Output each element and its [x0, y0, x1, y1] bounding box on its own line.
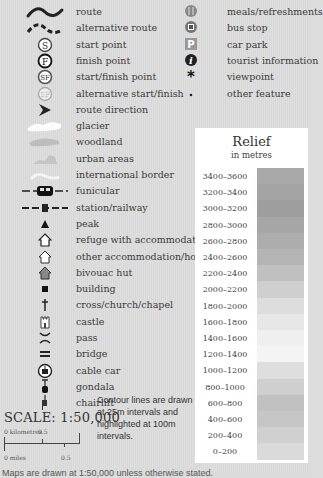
relief-band-swatch: [257, 168, 304, 185]
svg-text:P: P: [187, 39, 194, 50]
legend-label: gondala: [76, 381, 114, 393]
relief-band-swatch: [257, 379, 304, 396]
svg-text:F: F: [42, 56, 48, 66]
bus-stop-icon: [181, 19, 201, 35]
scale-bar: [4, 443, 80, 444]
tourist-information-icon: i: [181, 52, 201, 68]
relief-band-label: 200–400: [197, 431, 253, 440]
scale-miles-label: 0 miles: [4, 454, 26, 461]
relief-band-swatch: [257, 395, 304, 412]
relief-band-label: 1000–1200: [197, 366, 253, 375]
relief-band-label: 2400–2600: [197, 253, 253, 262]
relief-band-swatch: [257, 249, 304, 266]
relief-band-label: 0–200: [197, 447, 253, 456]
legend-label: other accommodation/hotel: [76, 251, 209, 263]
relief-title: Relief: [195, 134, 308, 149]
scale-tick-km-mid: [42, 439, 43, 443]
meals-refreshments-icon: [181, 3, 201, 19]
relief-band-label: 3200–3400: [197, 188, 253, 197]
other-feature-dot-icon: [181, 85, 201, 101]
legend-label: refuge with accommodation: [76, 234, 211, 246]
legend-label: viewpoint: [227, 71, 274, 83]
scale-tick-mi-mid: [64, 443, 65, 447]
contour-note: Contour lines are drawn at 25m intervals…: [97, 394, 197, 442]
relief-band-label: 1400–1600: [197, 334, 253, 343]
relief-band-swatch: [257, 427, 304, 444]
relief-band-swatch: [257, 443, 304, 460]
relief-key-panel: Relief in metres 3400–36003200–34003000–…: [195, 128, 308, 463]
legend-label: alternative route: [76, 22, 157, 34]
legend-label: bivouac hut: [76, 267, 132, 279]
legend-label: peak: [76, 218, 99, 230]
relief-band-swatch: [257, 200, 304, 217]
svg-text:SF: SF: [40, 74, 50, 82]
footer-note: Maps are drawn at 1:50,000 unless otherw…: [2, 468, 213, 478]
relief-band-label: 2600–2800: [197, 237, 253, 246]
legend-label: bus stop: [227, 22, 268, 34]
legend-label: station/railway: [76, 202, 148, 214]
legend-label: glacier: [76, 120, 109, 132]
relief-band-label: 1800–2000: [197, 302, 253, 311]
relief-band-swatch: [257, 265, 304, 282]
scale-tick-start: [4, 437, 5, 451]
legend-label: castle: [76, 316, 104, 328]
relief-band-label: 800–1000: [197, 383, 253, 392]
relief-band-swatch: [257, 298, 304, 315]
relief-band-swatch: [257, 184, 304, 201]
svg-text:i: i: [189, 55, 193, 66]
relief-band-swatch: [257, 346, 304, 363]
scale-km-mid: 0.5: [38, 428, 48, 435]
legend-label: route direction: [76, 104, 148, 116]
relief-band-label: 400–600: [197, 415, 253, 424]
svg-text:S: S: [42, 40, 48, 50]
relief-band-label: 1200–1400: [197, 350, 253, 359]
relief-band-swatch: [257, 281, 304, 298]
relief-band-swatch: [257, 314, 304, 331]
legend-label: alternative start/finish: [76, 88, 184, 100]
legend-label: international border: [76, 169, 174, 181]
legend-label: bridge: [76, 348, 107, 360]
svg-text:SF: SF: [40, 91, 50, 99]
legend-label: other feature: [227, 88, 291, 100]
legend-label: meals/refreshments: [227, 6, 323, 18]
legend-label: start/finish point: [76, 71, 156, 83]
legend-label: car park: [227, 39, 268, 51]
legend-label: pass: [76, 332, 98, 344]
legend-label: building: [76, 283, 116, 295]
relief-band-label: 3400–3600: [197, 172, 253, 181]
relief-band-swatch: [257, 217, 304, 234]
legend-label: start point: [76, 39, 127, 51]
relief-band-label: 600–800: [197, 399, 253, 408]
relief-band-label: 2200–2400: [197, 269, 253, 278]
scale-km-label: 0 kilometres: [4, 428, 42, 435]
relief-band-swatch: [257, 411, 304, 428]
relief-band-swatch: [257, 233, 304, 250]
viewpoint-asterisk-icon: *: [181, 68, 201, 84]
relief-subtitle: in metres: [195, 150, 308, 160]
car-park-icon: P: [181, 36, 201, 52]
relief-band-swatch: [257, 330, 304, 347]
relief-band-label: 2800–3000: [197, 221, 253, 230]
relief-band-label: 1600–1800: [197, 318, 253, 327]
legend-label: urban areas: [76, 153, 134, 165]
legend-label: woodland: [76, 136, 123, 148]
legend-label: tourist information: [227, 55, 318, 67]
scale-tick-km-end: [79, 433, 80, 443]
relief-band-label: 3000–3200: [197, 204, 253, 213]
legend-label: cross/church/chapel: [76, 299, 173, 311]
legend-label: cable car: [76, 365, 120, 377]
relief-band-label: 2000–2200: [197, 285, 253, 294]
svg-text:*: *: [187, 69, 195, 83]
legend-label: finish point: [76, 55, 130, 67]
legend-label: route: [76, 6, 102, 18]
relief-band-swatch: [257, 362, 304, 379]
legend-label: funicular: [76, 185, 119, 197]
scale-miles-mid: 0.5: [61, 454, 71, 461]
